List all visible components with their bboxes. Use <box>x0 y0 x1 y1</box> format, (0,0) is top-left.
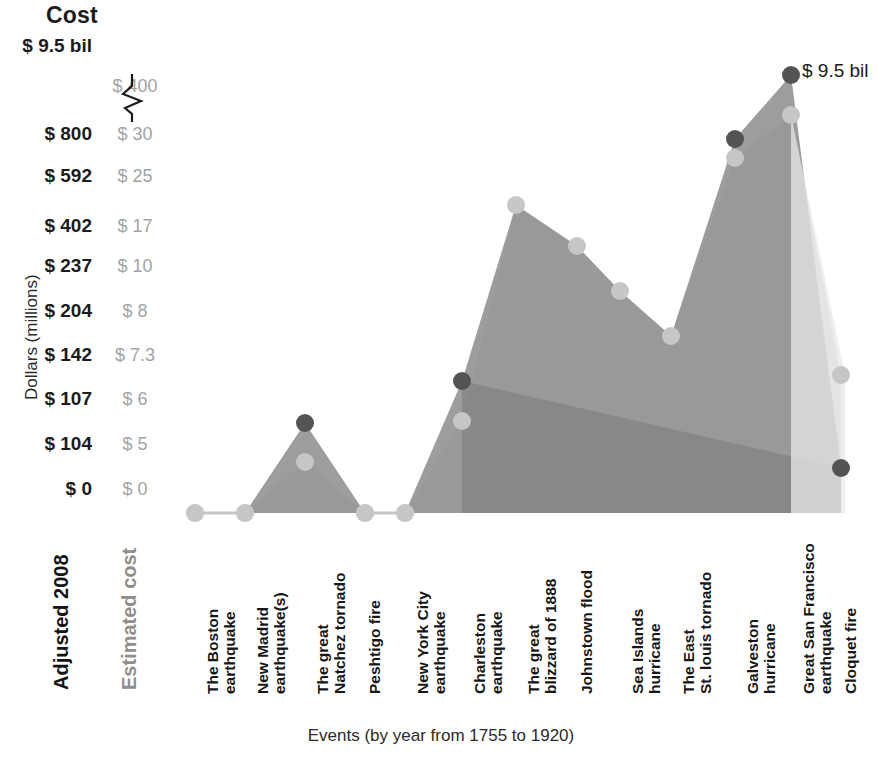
category-label-line: earthquake <box>221 609 238 694</box>
category-label-line: Galveston <box>744 619 761 694</box>
x-axis-category-label: Cloquet fire <box>842 608 859 694</box>
series-label-adjusted: Adjusted 2008 <box>50 554 73 690</box>
category-label-line: The East <box>680 572 697 694</box>
category-label-line: earthquake <box>488 611 505 694</box>
peak-value-annotation: $ 9.5 bil <box>802 60 869 82</box>
x-axis-category-label: New Madridearthquake(s) <box>254 592 288 694</box>
data-point-adjusted[interactable] <box>396 504 414 522</box>
category-label-line: Johnstown flood <box>578 570 595 694</box>
category-label-line: Natchez tornado <box>331 573 348 694</box>
category-label-line: New York City <box>414 591 431 694</box>
x-axis-category-label: Sea Islandshurricane <box>629 609 663 694</box>
data-point-estimated[interactable] <box>296 453 314 471</box>
x-axis-category-label: Johnstown flood <box>578 570 595 694</box>
x-axis-category-label: Galvestonhurricane <box>744 619 778 694</box>
category-label-line: Cloquet fire <box>842 608 859 694</box>
data-point-adjusted[interactable] <box>832 459 850 477</box>
category-label-line: hurricane <box>761 619 778 694</box>
category-label-line: St. louis tornado <box>697 572 714 694</box>
x-axis-category-label: The EastSt. louis tornado <box>680 572 714 694</box>
data-point-adjusted[interactable] <box>186 504 204 522</box>
x-axis-category-label: New York Cityearthquake <box>414 591 448 694</box>
category-label-line: The Boston <box>204 609 221 694</box>
data-point-adjusted[interactable] <box>296 414 314 432</box>
data-point-adjusted[interactable] <box>782 66 800 84</box>
data-point-adjusted[interactable] <box>236 504 254 522</box>
series-label-estimated: Estimated cost <box>118 548 141 690</box>
x-axis-category-label: The greatNatchez tornado <box>314 573 348 694</box>
estimated-right-sliver <box>791 115 845 513</box>
x-axis-caption: Events (by year from 1755 to 1920) <box>0 726 882 746</box>
category-label-line: Sea Islands <box>629 609 646 694</box>
category-label-line: Peshtigo fire <box>366 600 383 694</box>
category-label-line: New Madrid <box>254 592 271 694</box>
category-label-line: The great <box>525 579 542 694</box>
x-axis-category-label: The greatblizzard of 1888 <box>525 579 559 694</box>
category-label-line: earthquake <box>431 591 448 694</box>
area-chart-plot <box>0 0 882 560</box>
x-axis-category-label: Charlestonearthquake <box>471 611 505 694</box>
category-label-line: blizzard of 1888 <box>542 579 559 694</box>
x-axis-category-label: Great San Franciscoearthquake <box>800 543 834 694</box>
data-point-estimated[interactable] <box>832 366 850 384</box>
category-label-line: The great <box>314 573 331 694</box>
data-point-adjusted[interactable] <box>662 327 680 345</box>
data-point-adjusted[interactable] <box>611 282 629 300</box>
data-point-adjusted[interactable] <box>507 196 525 214</box>
category-label-line: Great San Francisco <box>800 543 817 694</box>
x-axis-category-label: Peshtigo fire <box>366 600 383 694</box>
category-label-line: earthquake <box>817 543 834 694</box>
data-point-adjusted[interactable] <box>568 237 586 255</box>
data-point-adjusted[interactable] <box>726 130 744 148</box>
category-label-line: hurricane <box>646 609 663 694</box>
category-label-line: earthquake(s) <box>271 592 288 694</box>
data-point-adjusted[interactable] <box>453 372 471 390</box>
data-point-estimated[interactable] <box>726 149 744 167</box>
data-point-estimated[interactable] <box>782 106 800 124</box>
category-label-line: Charleston <box>471 611 488 694</box>
data-point-adjusted[interactable] <box>356 504 374 522</box>
x-axis-category-label: The Bostonearthquake <box>204 609 238 694</box>
data-point-estimated[interactable] <box>453 412 471 430</box>
